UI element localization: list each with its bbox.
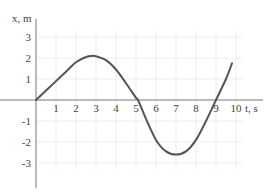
- svg-text:7: 7: [173, 102, 179, 114]
- svg-text:-3: -3: [22, 157, 32, 169]
- svg-text:3: 3: [26, 31, 32, 43]
- svg-text:2: 2: [26, 52, 32, 64]
- svg-text:-2: -2: [22, 136, 31, 148]
- svg-text:8: 8: [193, 102, 199, 114]
- svg-text:10: 10: [231, 102, 243, 114]
- svg-text:2: 2: [73, 102, 79, 114]
- svg-text:4: 4: [113, 102, 119, 114]
- y-axis-label: x, m: [12, 12, 32, 24]
- svg-text:5: 5: [133, 102, 139, 114]
- x-axis-label: t, s: [245, 102, 258, 114]
- position-time-chart: x, m t, s 1 2 3 4 5 6 7 8 9 10 3 2 1 -1 …: [0, 0, 273, 194]
- svg-text:1: 1: [53, 102, 59, 114]
- svg-text:-1: -1: [22, 115, 31, 127]
- svg-text:1: 1: [26, 73, 32, 85]
- svg-text:3: 3: [93, 102, 99, 114]
- svg-text:6: 6: [153, 102, 159, 114]
